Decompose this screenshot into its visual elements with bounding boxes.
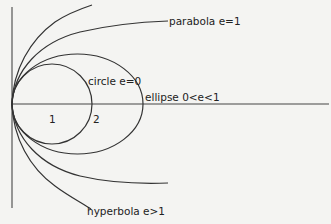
parabola-label: parabola e=1: [169, 15, 241, 27]
hyperbola-label: hyperbola e>1: [87, 205, 165, 217]
conic-sections-diagram: parabola e=1 circle e=0 ellipse 0<e<1 hy…: [0, 0, 331, 224]
circle-label: circle e=0: [88, 75, 141, 87]
mark-2-label: 2: [93, 113, 100, 125]
mark-1-label: 1: [49, 113, 56, 125]
ellipse-label: ellipse 0<e<1: [145, 91, 220, 103]
